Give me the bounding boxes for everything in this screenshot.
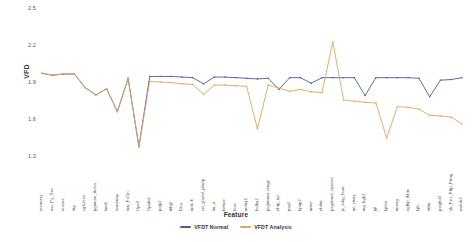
data-point — [418, 78, 419, 79]
data-point — [224, 84, 225, 85]
data-point — [278, 89, 279, 90]
data-point — [106, 88, 107, 89]
data-point — [235, 85, 236, 86]
data-point — [224, 76, 225, 77]
series-vfdt-normal — [41, 73, 462, 148]
x-axis-tick: pqtp2 — [158, 200, 162, 211]
data-point — [117, 111, 118, 112]
series-line — [42, 73, 462, 146]
data-point — [192, 84, 193, 85]
y-axis-tick: 1.3 — [14, 153, 36, 159]
y-axis-tick-labels: 1.31.61.92.22.5 — [0, 0, 36, 242]
x-axis-tick: Dizy — [179, 202, 183, 211]
data-point — [429, 96, 430, 97]
x-axis-title: Feature — [0, 211, 472, 218]
data-point — [257, 78, 258, 79]
data-point — [408, 77, 409, 78]
data-point — [128, 78, 129, 79]
data-point — [354, 77, 355, 78]
data-point — [203, 94, 204, 95]
data-point — [375, 77, 376, 78]
y-axis-tick: 2.5 — [14, 5, 36, 11]
data-point — [41, 73, 42, 74]
data-point — [203, 83, 204, 84]
data-point — [138, 146, 139, 147]
data-point — [214, 76, 215, 77]
legend-item[interactable]: VFDT Analysis — [240, 224, 291, 230]
data-point — [246, 86, 247, 87]
x-axis-tick: hqlbq2 — [255, 198, 259, 211]
data-point — [321, 77, 322, 78]
data-point — [429, 115, 430, 116]
x-axis-tick: ttlbj2 — [168, 202, 172, 211]
data-point — [311, 91, 312, 92]
data-point — [257, 128, 258, 129]
data-point — [451, 117, 452, 118]
data-point — [343, 99, 344, 100]
x-axis-tick: nhtp_tyc — [276, 194, 280, 211]
data-point — [364, 102, 365, 103]
x-axis-tick: sb_Pnz_Ptfp_Ptmg — [448, 174, 452, 211]
x-axis-tick: dtfm — [427, 202, 431, 211]
data-point — [235, 77, 236, 78]
data-point — [289, 91, 290, 92]
data-point — [461, 77, 462, 78]
data-point — [160, 81, 161, 82]
chart-legend: VFDT NormalVFDT Analysis — [0, 224, 472, 230]
x-axis-tick: roadmap — [115, 194, 119, 211]
data-point — [268, 84, 269, 85]
legend-color-swatch — [240, 226, 251, 228]
data-point — [268, 78, 269, 79]
x-axis-tick: psp2 — [287, 202, 291, 211]
x-axis-tick: mp_kgh2 — [362, 193, 366, 211]
data-point — [440, 80, 441, 81]
data-point — [171, 76, 172, 77]
data-point — [192, 77, 193, 78]
data-point — [246, 78, 247, 79]
data-point — [440, 115, 441, 116]
data-point — [171, 82, 172, 83]
x-axis-tick: recovery — [39, 194, 43, 211]
x-axis-tick: pgiauan_ttclus — [93, 183, 97, 211]
data-point — [375, 102, 376, 103]
data-point — [311, 83, 312, 84]
x-axis-tick-labels: recoveryasr_Py_Secrescuedtpsg6-lesspgiau… — [38, 157, 466, 211]
data-point — [181, 76, 182, 77]
data-point — [214, 84, 215, 85]
x-axis-tick: jx_lubg_hum — [341, 186, 345, 211]
data-point — [95, 94, 96, 95]
x-axis-tick: rescue — [61, 198, 65, 211]
x-axis-tick: low_PcOn — [125, 191, 129, 211]
data-point — [408, 107, 409, 108]
data-point — [386, 137, 387, 138]
x-axis-tick: mrlu-h — [190, 199, 194, 211]
x-axis-tick: tmeog — [395, 199, 399, 211]
x-axis-tick: hpop2 — [298, 199, 302, 211]
legend-label: VFDT Analysis — [254, 224, 291, 230]
x-axis-tick: hjlu — [416, 204, 420, 211]
x-axis-tick: mtne — [308, 201, 312, 211]
series-line — [42, 42, 462, 147]
data-point — [364, 95, 365, 96]
data-point — [418, 108, 419, 109]
x-axis-tick: hcin — [233, 203, 237, 211]
x-axis-tick: lm_d — [212, 202, 216, 211]
x-axis-tick: lom1 — [104, 202, 108, 211]
legend-label: VFDT Normal — [194, 224, 228, 230]
x-axis-tick: asr_Py_Sec — [50, 187, 54, 211]
x-axis-tick: psgutmer_tqsend — [330, 177, 334, 211]
data-point — [52, 75, 53, 76]
data-point — [461, 123, 462, 124]
data-point — [397, 77, 398, 78]
plot-svg — [38, 8, 466, 156]
legend-color-swatch — [180, 226, 191, 228]
data-point — [451, 79, 452, 80]
x-axis-tick: mrlinj2 — [244, 198, 248, 211]
data-point — [278, 88, 279, 89]
x-axis-tick: kefure — [222, 199, 226, 211]
data-point — [63, 73, 64, 74]
x-axis-tick: wetub2 — [459, 197, 463, 211]
data-point — [397, 106, 398, 107]
data-point — [289, 77, 290, 78]
legend-item[interactable]: VFDT Normal — [180, 224, 228, 230]
